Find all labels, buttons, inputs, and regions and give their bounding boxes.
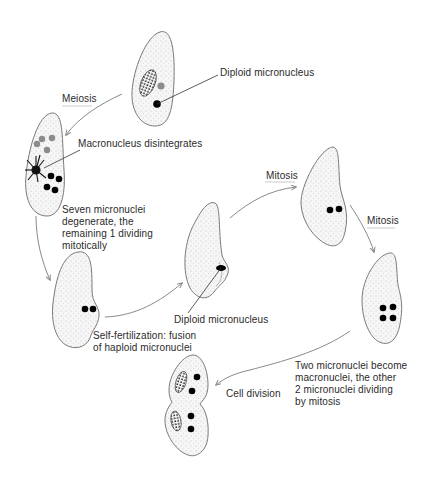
arrow-2-3 <box>36 216 50 280</box>
arrow-3-4 <box>105 283 182 317</box>
cell-stage-6 <box>362 253 402 343</box>
mitosis-arrow-1 <box>230 187 296 218</box>
label-cell-division: Cell division <box>226 388 281 400</box>
label-diploid-micronucleus-mid: Diploid micronucleus <box>174 314 268 326</box>
label-meiosis: Meiosis <box>62 93 97 105</box>
cell-stage-1 <box>132 32 218 126</box>
grey-micronucleus <box>157 82 164 89</box>
cell-stage-5 <box>301 147 347 246</box>
cell-stage-4 <box>185 203 228 313</box>
label-mitosis-1: Mitosis <box>266 170 298 182</box>
cell-stage-7 <box>165 355 208 456</box>
label-mitosis-2: Mitosis <box>367 215 399 227</box>
label-macronucleus-disintegrates: Macronucleus disintegrates <box>78 138 202 150</box>
mitosis-arrow-2 <box>350 205 374 252</box>
label-diploid-micronucleus-top: Diploid micronucleus <box>220 67 314 79</box>
